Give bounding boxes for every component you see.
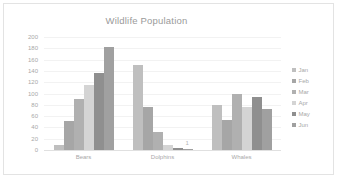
bar[interactable] [183,149,193,150]
y-axis-tick-label: 20 [31,136,38,142]
x-axis: BearsDolphinsWhales [44,154,281,166]
chart-title: Wildlife Population [4,15,289,26]
y-axis: 200180160140120100806040200 [4,37,41,150]
y-axis-tick-label: 80 [31,102,38,108]
x-axis-category-label: Dolphins [151,154,174,160]
legend-item-jan[interactable]: Jan [292,64,332,75]
legend-item-label: Mar [299,89,309,95]
bar[interactable] [173,148,183,150]
y-axis-tick-label: 120 [28,79,38,85]
bar[interactable] [222,120,232,150]
y-axis-tick-label: 160 [28,57,38,63]
bar[interactable] [64,121,74,150]
bar[interactable] [74,99,84,150]
chart-frame: Wildlife Population 20018016014012010080… [3,3,334,175]
bar[interactable] [153,132,163,150]
legend-item-label: Feb [299,78,309,84]
legend-swatch-icon [292,112,296,116]
legend-item-jun[interactable]: Jun [292,119,332,130]
legend-swatch-icon [292,68,296,72]
legend-item-apr[interactable]: Apr [292,97,332,108]
bar[interactable] [84,85,94,150]
legend-swatch-icon [292,101,296,105]
bar[interactable] [252,97,262,150]
bar[interactable] [104,47,114,150]
x-axis-category-label: Whales [231,154,251,160]
legend-item-label: Jan [299,67,309,73]
legend-swatch-icon [292,79,296,83]
y-axis-tick-label: 0 [35,147,38,153]
x-axis-category-label: Bears [76,154,92,160]
bars-layer: 1 [44,37,281,150]
bar[interactable] [242,107,252,150]
bar[interactable] [232,94,242,151]
legend-item-mar[interactable]: Mar [292,86,332,97]
legend-item-label: Apr [299,100,308,106]
bar-group [44,37,123,150]
y-axis-tick-label: 200 [28,34,38,40]
y-axis-tick-label: 40 [31,124,38,130]
y-axis-tick-label: 60 [31,113,38,119]
bar-group [202,37,281,150]
bar[interactable] [262,109,272,150]
legend-item-label: Jun [299,122,309,128]
bar[interactable] [212,105,222,150]
legend-item-feb[interactable]: Feb [292,75,332,86]
y-axis-tick-label: 140 [28,68,38,74]
y-axis-tick-label: 100 [28,91,38,97]
bar-group [123,37,202,150]
bar[interactable] [133,65,143,150]
bar[interactable] [94,73,104,150]
bar[interactable] [143,107,153,151]
legend-swatch-icon [292,123,296,127]
chart-legend: JanFebMarAprMayJun [292,64,332,130]
plot-area: 1 [44,37,281,150]
bar[interactable] [54,145,64,150]
data-label: 1 [186,140,189,146]
legend-swatch-icon [292,90,296,94]
y-axis-tick-label: 180 [28,45,38,51]
bar[interactable] [163,145,173,150]
gridline [44,150,281,151]
legend-item-may[interactable]: May [292,108,332,119]
legend-item-label: May [299,111,310,117]
